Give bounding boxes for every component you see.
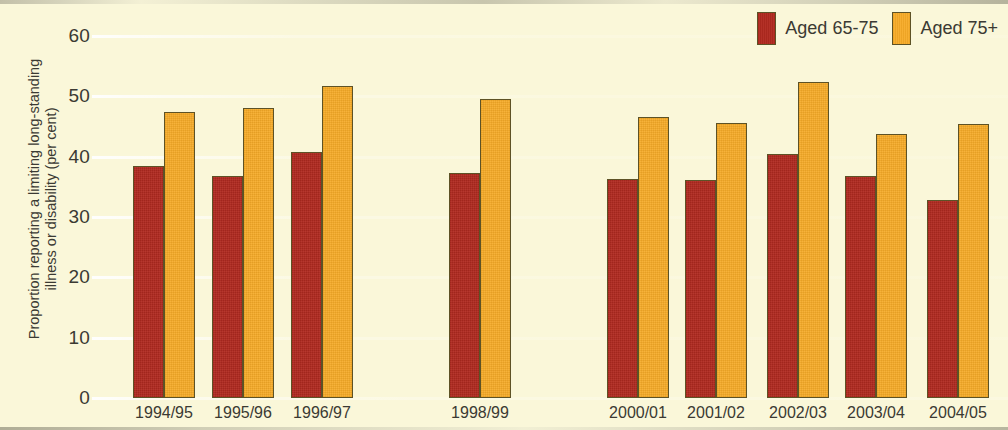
bar-2000-01-aged-65-75 [607,179,638,398]
bar-2002-03-aged-75-plus [798,82,829,398]
x-axis-tick-label: 2000/01 [598,404,678,422]
legend-swatch-icon [757,12,776,45]
x-axis-tick-label: 2002/03 [758,404,838,422]
gridline [92,156,1008,159]
x-axis-tick-label: 1996/97 [282,404,362,422]
bar-1994-95-aged-75-plus [164,112,195,398]
bar-2000-01-aged-75-plus [638,117,669,398]
bar-2004-05-aged-75-plus [958,124,989,398]
x-axis-tick-label: 2001/02 [676,404,756,422]
bar-1995-96-aged-65-75 [212,176,243,398]
legend-label: Aged 75+ [920,18,998,39]
x-axis-tick-label: 1998/99 [440,404,520,422]
bar-1998-99-aged-75-plus [480,99,511,398]
bar-1998-99-aged-65-75 [449,173,480,398]
legend-entry-aged-65-75: Aged 65-75 [757,12,878,45]
chart-legend: Aged 65-75Aged 75+ [757,12,998,45]
legend-swatch-icon [892,12,911,45]
bar-1996-97-aged-65-75 [291,152,322,398]
bar-2002-03-aged-65-75 [767,154,798,398]
gridline [92,95,1008,98]
x-axis-tick-label: 2003/04 [836,404,916,422]
bar-2003-04-aged-75-plus [876,134,907,398]
chart-container: 01020304050601994/951995/961996/971998/9… [0,0,1008,430]
x-axis-tick-label: 2004/05 [918,404,998,422]
bar-1995-96-aged-75-plus [243,108,274,398]
plot-area: 01020304050601994/951995/961996/971998/9… [0,0,1008,430]
legend-entry-aged-75-plus: Aged 75+ [892,12,998,45]
x-axis-tick-label: 1995/96 [203,404,283,422]
x-axis-tick-label: 1994/95 [124,404,204,422]
bar-2001-02-aged-75-plus [716,123,747,398]
bar-2003-04-aged-65-75 [845,176,876,398]
legend-label: Aged 65-75 [785,18,878,39]
bar-1996-97-aged-75-plus [322,86,353,398]
bar-1994-95-aged-65-75 [133,166,164,398]
bar-2001-02-aged-65-75 [685,180,716,398]
y-axis-title: Proportion reporting a limiting long-sta… [26,4,60,394]
bar-2004-05-aged-65-75 [927,200,958,398]
